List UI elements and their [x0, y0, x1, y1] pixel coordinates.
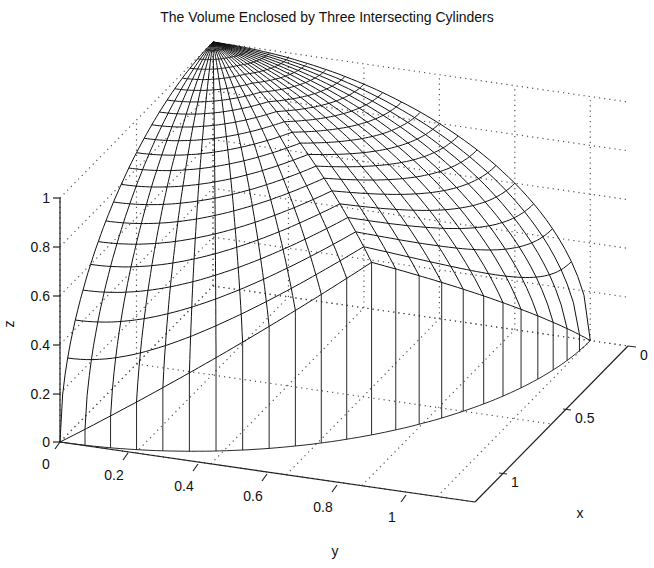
mesh-radial-line	[163, 42, 213, 388]
mesh-radial-line	[85, 42, 213, 429]
mesh-circular-line	[68, 247, 572, 360]
x-tick-label: 0.5	[575, 410, 595, 426]
x-axis-line	[475, 346, 628, 502]
grid-line-floor-y	[135, 297, 288, 453]
grid-line-floor-x	[213, 286, 628, 346]
z-tick-label: 0	[42, 434, 50, 450]
mesh-radial-line	[189, 42, 213, 373]
y-tick-label: 0.6	[243, 488, 263, 504]
x-tick	[628, 346, 636, 347]
grid-line-xwall-z	[213, 140, 628, 200]
z-tick-label: 0.4	[31, 337, 51, 353]
grid-line-ywall-z	[60, 42, 213, 198]
z-tick-label: 0.8	[31, 239, 51, 255]
y-tick	[401, 495, 406, 502]
y-tick-label: 1	[388, 509, 396, 525]
mesh-radial-line	[213, 42, 243, 342]
surface-mesh	[60, 42, 590, 442]
grid-line-xwall-z	[213, 42, 628, 102]
mesh-radial-line	[213, 42, 590, 341]
y-tick	[193, 464, 198, 471]
y-tick	[123, 453, 128, 460]
z-tick-label: 0.6	[31, 288, 51, 304]
grid-line-floor-x	[137, 364, 552, 424]
y-tick	[332, 485, 337, 492]
y-tick-label: 0	[42, 456, 50, 472]
plot-area: 10.80.60.40.2000.20.40.60.8100.51 z y x	[0, 0, 654, 568]
z-tick-label: 1	[42, 190, 50, 206]
z-axis-label: z	[1, 321, 17, 328]
x-tick-label: 1	[511, 474, 519, 490]
y-tick-label: 0.2	[104, 467, 124, 483]
y-tick	[262, 474, 267, 481]
grid-line-floor-y	[362, 330, 515, 486]
mesh-circular-line	[60, 262, 590, 442]
mesh-circular-line	[129, 112, 421, 170]
y-tick-label: 0.4	[174, 478, 194, 494]
grid-line-floor-y	[286, 319, 439, 475]
x-tick-label: 0	[640, 347, 648, 363]
x-axis-label: x	[577, 505, 584, 521]
x-tick	[563, 409, 571, 410]
y-axis-label: y	[332, 543, 339, 559]
grid-line-ywall-z	[60, 237, 213, 393]
tick-marks: 10.80.60.40.2000.20.40.60.8100.51	[31, 190, 648, 525]
x-tick	[499, 473, 507, 474]
y-tick	[55, 442, 60, 449]
mesh-radial-line	[213, 42, 442, 283]
z-tick-label: 0.2	[31, 386, 51, 402]
y-tick-label: 0.8	[313, 499, 333, 515]
